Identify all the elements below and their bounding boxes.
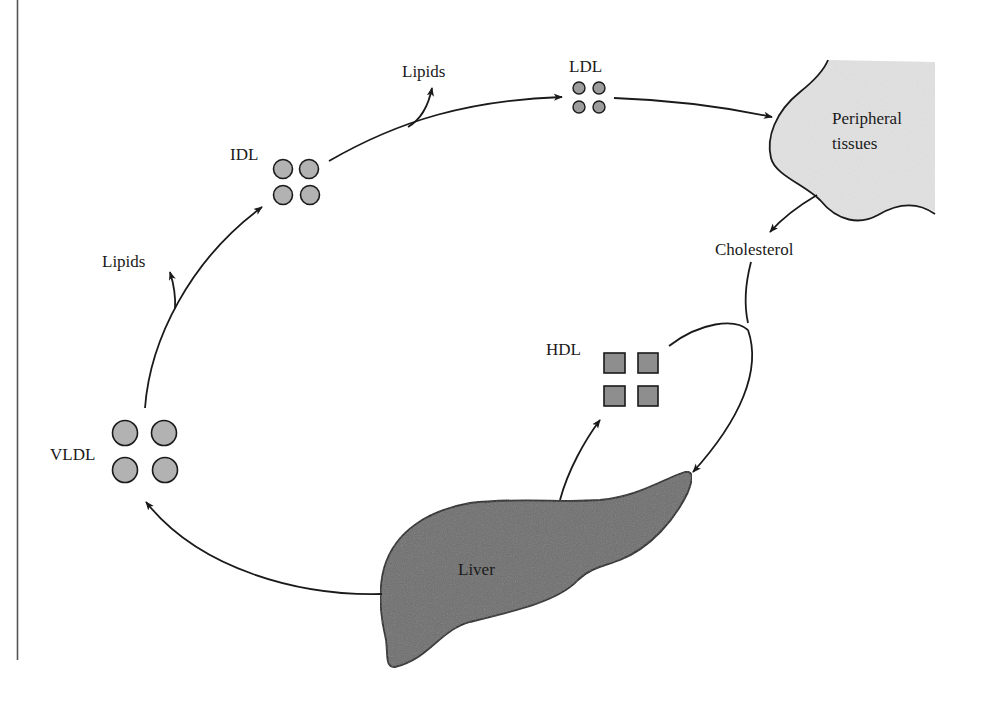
idl-particle <box>274 160 293 179</box>
arrow-ldl-to-peripheral <box>614 98 772 117</box>
hdl-particle <box>638 386 658 406</box>
vldl-particle <box>113 458 138 483</box>
liver-label: Liver <box>458 560 495 579</box>
ldl-particle <box>573 82 585 94</box>
peripheral-tissues: Peripheral tissues <box>770 60 935 220</box>
vldl-label: VLDL <box>50 445 95 464</box>
line-hdl-to-junction <box>669 323 748 346</box>
liver: Liver <box>380 472 691 667</box>
vldl-particle <box>153 458 178 483</box>
arrow-vldl-to-idl <box>145 207 262 408</box>
idl-particle <box>274 186 293 205</box>
idl-particle <box>301 186 320 205</box>
ldl-particles: LDL <box>569 57 605 113</box>
peripheral-label-line2: tissues <box>832 134 877 153</box>
idl-particles: IDL <box>230 145 320 205</box>
vldl-particle <box>152 421 177 446</box>
hdl-label: HDL <box>546 340 581 359</box>
idl-particle <box>300 160 319 179</box>
peripheral-label-line1: Peripheral <box>832 109 902 128</box>
hdl-particles: HDL <box>546 340 658 406</box>
ldl-particle <box>573 101 585 113</box>
vldl-particle <box>113 421 138 446</box>
cholesterol-label: Cholesterol <box>715 240 794 259</box>
arrow-liver-to-vldl <box>146 502 382 594</box>
arrow-to-lipids-left <box>170 272 175 309</box>
hdl-particle <box>638 353 658 373</box>
vldl-particles: VLDL <box>50 421 178 483</box>
lipids-label-left: Lipids <box>102 252 145 271</box>
arrow-peripheral-to-cholesterol <box>770 195 817 232</box>
lipids-label-top: Lipids <box>402 62 445 81</box>
liver-shape <box>380 472 691 667</box>
hdl-particle <box>604 353 625 373</box>
line-cholesterol-to-junction <box>746 262 751 323</box>
lipoprotein-diagram: Peripheral tissues Liver VLDL IDL LDL HD… <box>0 0 988 704</box>
ldl-particle <box>593 101 605 113</box>
ldl-label: LDL <box>569 57 602 76</box>
hdl-particle <box>604 386 625 406</box>
idl-label: IDL <box>230 145 258 164</box>
arrow-liver-to-hdl <box>560 420 600 500</box>
arrow-junction-to-liver <box>693 330 752 472</box>
arrow-idl-to-ldl <box>329 97 562 161</box>
ldl-particle <box>593 82 605 94</box>
arrow-to-lipids-top <box>408 88 432 127</box>
